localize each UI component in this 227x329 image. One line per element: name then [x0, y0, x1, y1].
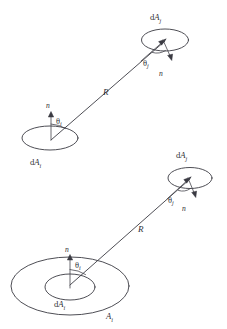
bottom-target-normal-arrowhead — [192, 191, 197, 197]
bottom-target-patch-label: dAj — [176, 150, 188, 162]
top-source-normal-arrowhead — [48, 112, 53, 118]
top-target-normal-label: n — [159, 69, 163, 78]
bottom-source-angle-label: θi — [75, 261, 81, 271]
bottom-target-normal-label: n — [182, 204, 186, 213]
top-source-patch-label: dAi — [30, 157, 42, 169]
top-target-normal-arrowhead — [168, 54, 173, 60]
view-factor-diagram: dAj θj n R n θi dAi — [0, 0, 227, 329]
bottom-distance-label: R — [137, 224, 144, 234]
top-panel: dAj θj n R n θi dAi — [22, 12, 189, 169]
top-target-angle-label: θj — [143, 59, 149, 69]
bottom-panel: dAj θj n R n θi dAi Ai — [11, 150, 212, 323]
top-source-normal-label: n — [46, 101, 50, 110]
bottom-target-angle-label: θj — [168, 196, 174, 206]
top-distance-label: R — [102, 87, 109, 97]
top-source-patch-ellipse — [22, 126, 78, 150]
top-target-patch-label: dAj — [150, 12, 162, 24]
bottom-source-normal-label: n — [65, 245, 69, 254]
top-source-angle-label: θi — [56, 117, 62, 127]
figure-root: dAj θj n R n θi dAi — [0, 0, 227, 329]
bottom-source-patch-label: dAi — [54, 299, 66, 311]
bottom-finite-area-label: Ai — [105, 311, 113, 323]
